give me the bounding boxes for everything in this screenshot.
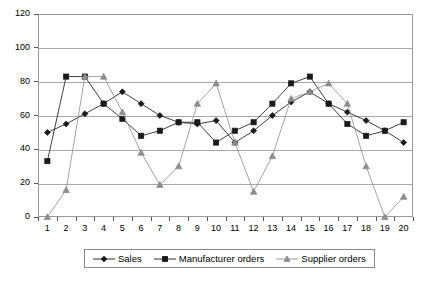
x-tick-mark [94,217,95,221]
legend-label: Sales [118,254,142,264]
x-tick-mark [338,217,339,221]
x-tick-label: 17 [338,224,357,233]
x-tick-mark [376,217,377,221]
data-point-marker [64,74,69,79]
data-point-marker [44,129,50,135]
data-point-marker [251,120,256,125]
legend-marker-diamond-icon [93,254,115,264]
y-tick-label: 100 [2,43,30,52]
y-tick-label: 40 [2,144,30,153]
data-point-marker [401,120,406,125]
legend-label: Supplier orders [301,254,365,264]
chart-legend: SalesManufacturer ordersSupplier orders [84,249,375,268]
data-point-marker [364,133,369,138]
x-tick-label: 3 [76,224,95,233]
data-point-marker [45,159,50,164]
data-point-marker [138,149,145,155]
y-tick-label: 80 [2,77,30,86]
x-tick-label: 12 [244,224,263,233]
data-point-marker [325,80,332,86]
data-point-marker [232,128,237,133]
data-point-marker [44,214,51,220]
x-tick-mark [151,217,152,221]
x-tick-label: 19 [376,224,395,233]
data-point-marker [270,101,275,106]
series-line [47,77,403,217]
x-tick-label: 10 [207,224,226,233]
y-tick-label: 0 [2,212,30,221]
x-tick-mark [188,217,189,221]
data-point-marker [288,95,295,101]
data-point-marker [214,140,219,145]
series-line [47,77,403,162]
x-tick-mark [263,217,264,221]
line-chart: 020406080100120 123456789101112131415161… [0,0,428,281]
x-tick-label: 18 [357,224,376,233]
data-point-marker [138,101,144,107]
data-point-marker [63,121,69,127]
legend-item-supplier-orders[interactable]: Supplier orders [276,254,365,264]
data-point-marker [213,80,220,86]
x-tick-label: 6 [132,224,151,233]
data-point-marker [401,140,407,146]
x-tick-mark [413,217,414,221]
x-tick-mark [244,217,245,221]
data-point-marker [400,193,407,199]
x-tick-mark [226,217,227,221]
data-point-marker [345,121,350,126]
data-point-marker [195,120,200,125]
data-point-marker [382,128,387,133]
x-tick-label: 4 [94,224,113,233]
x-tick-mark [282,217,283,221]
x-tick-mark [57,217,58,221]
y-tick-label: 20 [2,178,30,187]
y-tick-label: 60 [2,111,30,120]
data-point-marker [363,118,369,124]
legend-label: Manufacturer orders [179,254,265,264]
data-point-marker [176,120,181,125]
data-point-marker [307,74,312,79]
data-point-marker [250,188,257,194]
x-tick-label: 9 [188,224,207,233]
data-point-marker [119,89,125,95]
data-point-marker [101,101,106,106]
x-tick-mark [169,217,170,221]
legend-marker-square-icon [154,254,176,264]
y-tick-label: 120 [2,9,30,18]
x-tick-mark [394,217,395,221]
x-tick-label: 2 [57,224,76,233]
data-point-marker [363,163,370,169]
data-point-marker [157,113,163,119]
data-point-marker [119,109,126,115]
legend-marker-triangle-icon [276,254,298,264]
x-tick-label: 16 [319,224,338,233]
x-tick-mark [113,217,114,221]
legend-item-manufacturer-orders[interactable]: Manufacturer orders [154,254,265,264]
data-point-marker [120,116,125,121]
data-point-marker [82,111,88,117]
data-point-marker [157,128,162,133]
x-tick-mark [132,217,133,221]
legend-item-sales[interactable]: Sales [93,254,142,264]
x-tick-label: 13 [263,224,282,233]
x-tick-mark [38,217,39,221]
x-tick-label: 8 [169,224,188,233]
x-tick-mark [357,217,358,221]
x-tick-label: 7 [151,224,170,233]
data-point-marker [326,101,331,106]
x-tick-label: 14 [282,224,301,233]
x-tick-mark [207,217,208,221]
series-layer [38,14,413,217]
series-supplier-orders [44,73,407,219]
x-tick-label: 1 [38,224,57,233]
data-point-marker [175,163,182,169]
data-point-marker [139,133,144,138]
x-tick-label: 15 [301,224,320,233]
data-point-marker [289,81,294,86]
x-tick-label: 20 [394,224,413,233]
x-tick-mark [301,217,302,221]
x-tick-mark [319,217,320,221]
x-tick-mark [76,217,77,221]
data-point-marker [269,153,276,159]
x-tick-label: 5 [113,224,132,233]
